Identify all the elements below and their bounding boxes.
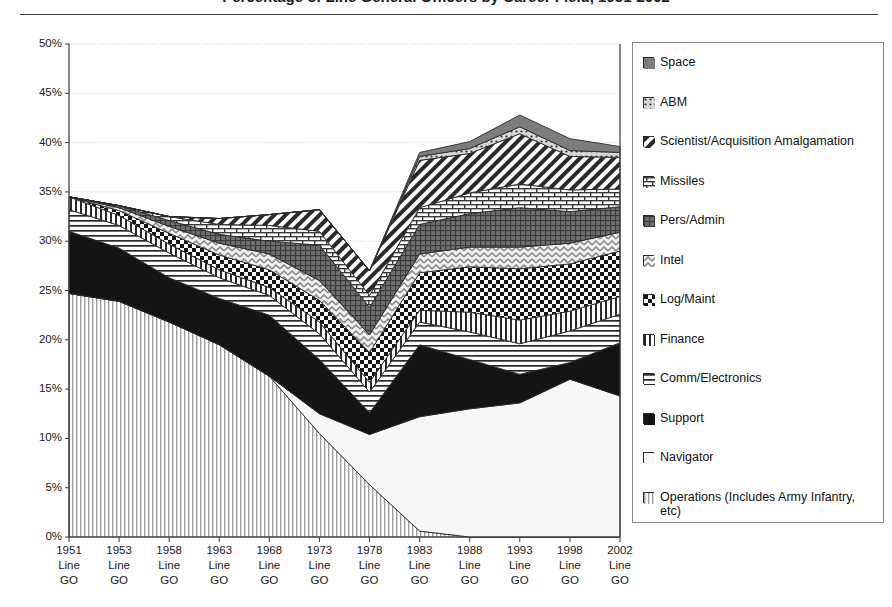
legend-item[interactable]: Missiles [643,174,877,189]
x-axis-tick-label-line: Line [345,558,395,573]
legend-item-label: Missiles [660,174,704,189]
legend-item-label: Finance [660,332,704,347]
y-axis-tick-label: 15% [22,383,62,394]
legend-item-label: Scientist/Acquisition Amalgamation [660,134,854,149]
x-axis-tick-label-line: GO [395,573,445,588]
legend-swatch-icon [643,334,654,345]
legend-item[interactable]: Comm/Electronics [643,371,877,386]
x-axis-tick-labels: 1951LineGO1953LineGO1958LineGO1963LineGO… [69,543,620,605]
x-axis-tick-label-line: GO [194,573,244,588]
legend-swatch-icon [643,255,654,266]
y-axis-tick-label: 50% [22,38,62,49]
x-axis-tick-label-line: GO [545,573,595,588]
x-axis-tick-label-line: GO [495,573,545,588]
x-axis-tick-label-line: GO [94,573,144,588]
x-axis-tick-label-line: Line [244,558,294,573]
x-axis-tick-label-line: 1998 [545,543,595,558]
legend-swatch-icon [643,492,654,503]
y-axis-tick-label: 35% [22,186,62,197]
legend-item[interactable]: Pers/Admin [643,213,877,228]
chart-page: Percentage of Line General Officers by C… [0,0,892,607]
x-axis-tick-label: 1963LineGO [194,543,244,588]
legend-item[interactable]: Navigator [643,450,877,465]
legend-swatch-icon [643,176,654,187]
x-axis-tick-label-line: Line [144,558,194,573]
legend-item-label: Navigator [660,450,714,465]
legend-item-label: Log/Maint [660,292,715,307]
y-axis-tick-label: 45% [22,87,62,98]
x-axis-tick-label-line: Line [395,558,445,573]
x-axis-tick-label-line: 1951 [44,543,94,558]
legend-item-label: Operations (Includes Army Infantry, etc) [660,490,877,519]
legend-swatch-icon [643,413,654,424]
x-axis-tick-label-line: 1978 [345,543,395,558]
legend-item-label: Space [660,55,695,70]
legend-swatch-icon [643,452,654,463]
x-axis-tick-label-line: 1953 [94,543,144,558]
y-axis-tick-label: 25% [22,285,62,296]
legend-swatch-icon [643,57,654,68]
chart-legend: SpaceABMScientist/Acquisition Amalgamati… [632,42,884,523]
x-axis-tick-label: 1973LineGO [294,543,344,588]
legend-item[interactable]: Log/Maint [643,292,877,307]
y-axis-tick-labels: 0%5%10%15%20%25%30%35%40%45%50% [18,0,62,607]
x-axis-tick-label: 1988LineGO [445,543,495,588]
x-axis-tick-label-line: 1983 [395,543,445,558]
legend-item[interactable]: Space [643,55,877,70]
x-axis-tick-label-line: GO [595,573,645,588]
legend-item[interactable]: Scientist/Acquisition Amalgamation [643,134,877,149]
x-axis-tick-label-line: Line [445,558,495,573]
x-axis-tick-label: 1998LineGO [545,543,595,588]
x-axis-tick-label-line: 2002 [595,543,645,558]
x-axis-tick-label: 1958LineGO [144,543,194,588]
x-axis-tick-label-line: GO [294,573,344,588]
legend-item[interactable]: Operations (Includes Army Infantry, etc) [643,490,877,519]
x-axis-tick-label-line: 1968 [244,543,294,558]
x-axis-tick-label-line: GO [345,573,395,588]
x-axis-tick-label-line: Line [194,558,244,573]
y-axis-tick-label: 30% [22,235,62,246]
x-axis-tick-label: 1978LineGO [345,543,395,588]
x-axis-tick-label-line: GO [44,573,94,588]
legend-item[interactable]: Intel [643,253,877,268]
y-axis-tick-label: 40% [22,137,62,148]
x-axis-tick-label-line: GO [244,573,294,588]
legend-item-label: ABM [660,95,687,110]
legend-item-label: Intel [660,253,684,268]
legend-item-label: Comm/Electronics [660,371,761,386]
x-axis-tick-label-line: GO [144,573,194,588]
legend-item-label: Pers/Admin [660,213,725,228]
x-axis-tick-label: 1951LineGO [44,543,94,588]
legend-item[interactable]: Finance [643,332,877,347]
x-axis-tick-label-line: 1973 [294,543,344,558]
x-axis-tick-label-line: Line [595,558,645,573]
legend-swatch-icon [643,136,654,147]
legend-swatch-icon [643,294,654,305]
x-axis-tick-label-line: 1988 [445,543,495,558]
x-axis-tick-label: 2002LineGO [595,543,645,588]
legend-item[interactable]: Support [643,411,877,426]
x-axis-tick-label: 1953LineGO [94,543,144,588]
legend-item[interactable]: ABM [643,95,877,110]
y-axis-tick-label: 0% [22,531,62,542]
legend-item-label: Support [660,411,704,426]
x-axis-tick-label: 1983LineGO [395,543,445,588]
x-axis-tick-label-line: 1993 [495,543,545,558]
x-axis-tick-label-line: Line [495,558,545,573]
x-axis-tick-label-line: Line [294,558,344,573]
y-axis-tick-label: 5% [22,482,62,493]
x-axis-tick-label-line: GO [445,573,495,588]
x-axis-tick-label: 1968LineGO [244,543,294,588]
legend-swatch-icon [643,97,654,108]
y-axis-tick-label: 10% [22,432,62,443]
x-axis-tick-label-line: 1958 [144,543,194,558]
legend-swatch-icon [643,215,654,226]
y-axis-tick-label: 20% [22,334,62,345]
x-axis-tick-label-line: Line [94,558,144,573]
x-axis-tick-label-line: Line [545,558,595,573]
area-bands [69,115,620,537]
x-axis-tick-label: 1993LineGO [495,543,545,588]
legend-swatch-icon [643,373,654,384]
x-axis-tick-label-line: 1963 [194,543,244,558]
x-axis-tick-label-line: Line [44,558,94,573]
